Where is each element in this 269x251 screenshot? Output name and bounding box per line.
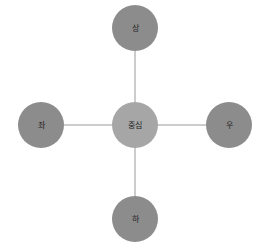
star-diagram: 상 좌 우 하 중심 <box>0 0 269 251</box>
node-top-label: 상 <box>132 23 140 33</box>
node-center: 중심 <box>112 102 158 148</box>
node-bottom: 하 <box>112 196 158 242</box>
node-bottom-label: 하 <box>132 214 140 224</box>
node-right-label: 우 <box>226 121 233 130</box>
node-right: 우 <box>206 102 252 148</box>
node-top: 상 <box>112 5 158 51</box>
node-left: 좌 <box>18 102 64 148</box>
node-center-label: 중심 <box>128 120 142 130</box>
node-left-label: 좌 <box>38 121 46 130</box>
